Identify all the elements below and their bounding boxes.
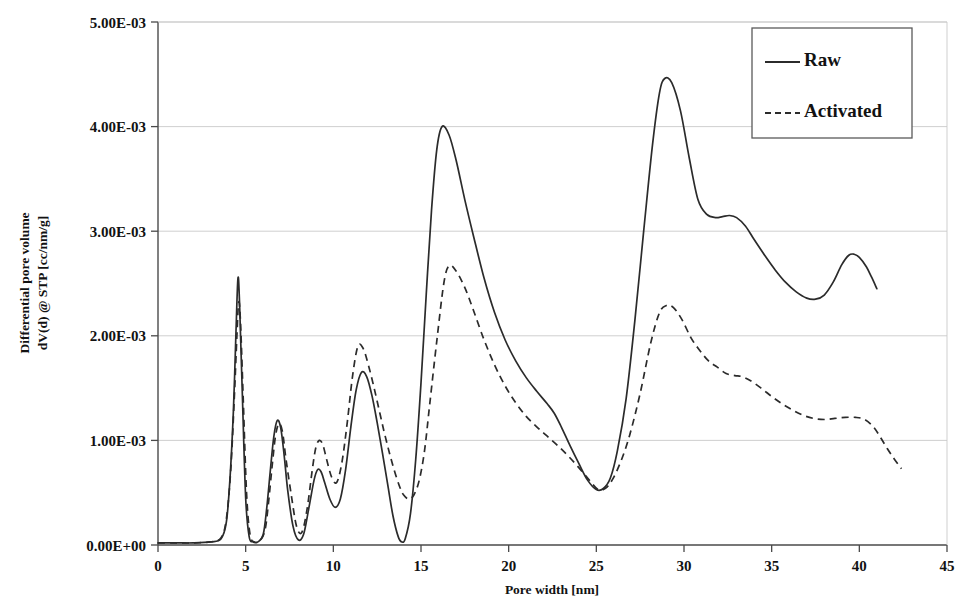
legend-label-activated: Activated bbox=[804, 100, 883, 121]
x-tick-label: 5 bbox=[242, 558, 250, 574]
y-axis-title-line2: dV(d) @ STP [cc/nm/g] bbox=[35, 216, 50, 350]
y-tick-label: 5.00E-03 bbox=[90, 15, 146, 31]
x-axis-title: Pore width [nm] bbox=[505, 582, 599, 597]
legend[interactable]: Raw Activated bbox=[752, 28, 912, 138]
y-tick-label: 4.00E-03 bbox=[90, 119, 146, 135]
legend-frame bbox=[752, 28, 912, 138]
x-tick-labels: 051015202530354045 bbox=[154, 558, 954, 574]
pore-size-distribution-chart: 0.00E+001.00E-032.00E-033.00E-034.00E-03… bbox=[0, 0, 971, 615]
y-tick-labels: 0.00E+001.00E-032.00E-033.00E-034.00E-03… bbox=[86, 15, 146, 554]
x-tick-label: 0 bbox=[154, 558, 162, 574]
y-tick-label: 3.00E-03 bbox=[90, 224, 146, 240]
x-tick-label: 15 bbox=[414, 558, 429, 574]
y-tick-label: 1.00E-03 bbox=[90, 433, 146, 449]
y-axis-title: Differential pore volume dV(d) @ STP [cc… bbox=[17, 212, 50, 353]
x-tick-label: 10 bbox=[326, 558, 341, 574]
x-tick-marks bbox=[158, 545, 947, 552]
y-tick-marks bbox=[151, 22, 158, 545]
y-tick-label: 2.00E-03 bbox=[90, 328, 146, 344]
x-tick-label: 25 bbox=[589, 558, 604, 574]
x-tick-label: 30 bbox=[677, 558, 692, 574]
series-line-raw bbox=[158, 78, 877, 543]
series-line-activated bbox=[158, 265, 901, 543]
x-tick-label: 40 bbox=[852, 558, 867, 574]
y-axis-title-line1: Differential pore volume bbox=[17, 212, 32, 353]
y-tick-label: 0.00E+00 bbox=[86, 538, 146, 554]
chart-figure: 0.00E+001.00E-032.00E-033.00E-034.00E-03… bbox=[0, 0, 971, 615]
x-tick-label: 35 bbox=[764, 558, 779, 574]
x-tick-label: 20 bbox=[501, 558, 516, 574]
x-axis-title-text: Pore width [nm] bbox=[505, 582, 599, 597]
data-series bbox=[158, 78, 901, 543]
x-tick-label: 45 bbox=[940, 558, 955, 574]
legend-label-raw: Raw bbox=[804, 49, 841, 70]
